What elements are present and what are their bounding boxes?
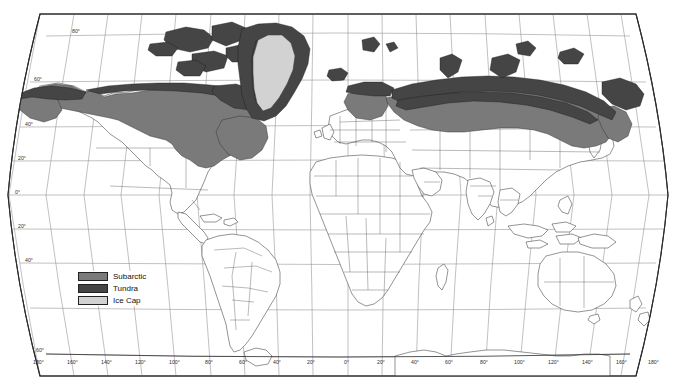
lon-label: 160° [616,359,627,365]
legend-item-ice-cap[interactable]: Ice Cap [78,295,146,306]
map-legend: Subarctic Tundra Ice Cap [78,271,146,306]
lon-label: 80° [480,359,488,365]
lon-label: 20° [377,359,385,365]
lon-label: 0° [344,359,349,365]
map-canvas: 80° 60° 40° 20° 0° 20° 40° 60° 180° 160°… [0,0,676,390]
lon-label: 140° [582,359,593,365]
lat-label: 60° [34,76,42,82]
lon-label: 120° [548,359,559,365]
legend-swatch-tundra [78,284,108,293]
legend-item-tundra[interactable]: Tundra [78,283,146,294]
legend-swatch-ice-cap [78,296,108,305]
lon-label: 100° [514,359,525,365]
lat-label: 80° [72,28,80,34]
lon-label: 180° [33,359,44,365]
lon-label: 40° [273,359,281,365]
lat-label: 20° [18,155,26,161]
lon-label: 40° [411,359,419,365]
lon-label: 100° [169,359,180,365]
lon-label: 120° [135,359,146,365]
lon-label: 140° [101,359,112,365]
legend-label-ice-cap: Ice Cap [113,296,141,305]
lon-label: 180° [648,359,659,365]
lat-label: 40° [25,121,33,127]
world-climate-map: 80° 60° 40° 20° 0° 20° 40° 60° 180° 160°… [0,0,676,390]
lat-label: 20° [18,223,26,229]
lon-label: 20° [307,359,315,365]
lat-label: 40° [25,257,33,263]
lon-label: 80° [205,359,213,365]
legend-swatch-subarctic [78,272,108,281]
lon-label: 160° [67,359,78,365]
lat-label: 60° [36,347,44,353]
legend-label-subarctic: Subarctic [113,272,146,281]
lon-label: 60° [445,359,453,365]
legend-item-subarctic[interactable]: Subarctic [78,271,146,282]
legend-label-tundra: Tundra [113,284,138,293]
lat-label: 0° [15,189,20,195]
lon-label: 60° [239,359,247,365]
